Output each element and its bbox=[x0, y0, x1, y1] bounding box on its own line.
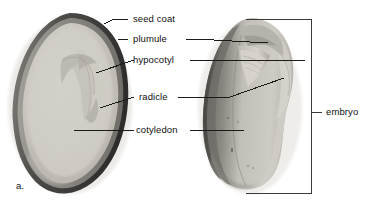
label-seed-coat: seed coat bbox=[133, 14, 175, 24]
right-embryo-specimen bbox=[198, 18, 302, 194]
panel-letter: a. bbox=[16, 180, 24, 191]
label-hypocotyl: hypocotyl bbox=[133, 55, 174, 65]
label-embryo: embryo bbox=[326, 107, 358, 117]
label-plumule: plumule bbox=[133, 34, 167, 44]
label-cotyledon: cotyledon bbox=[136, 125, 178, 135]
label-radicle: radicle bbox=[139, 92, 168, 102]
bean-seed-anatomy-figure: seed coat plumule hypocotyl radicle coty… bbox=[0, 0, 380, 204]
leader-seed-coat-2 bbox=[104, 19, 114, 24]
figure-illustration bbox=[0, 0, 380, 204]
